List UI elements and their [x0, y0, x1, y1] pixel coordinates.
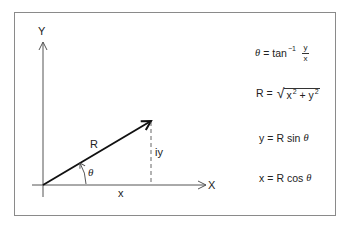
square-root: √ x2 + y2 [277, 86, 320, 100]
fraction-denominator: x [303, 55, 307, 63]
radical-sign-icon: √ [277, 86, 285, 100]
formula-theta-eq: = [263, 48, 269, 59]
angle-arc [80, 163, 86, 184]
fraction-numerator: y [303, 44, 307, 52]
horizontal-component-label: x [118, 188, 124, 199]
formula-y-r: R [276, 133, 284, 144]
formula-x-r: R [276, 173, 284, 184]
formula-y-func: sin [287, 133, 300, 144]
formula-y-lhs: y [259, 133, 264, 144]
radicand-x: x [286, 89, 291, 101]
formula-theta-sup: −1 [288, 45, 296, 52]
formula-x-lhs: x [259, 173, 264, 184]
vector-r-label: R [90, 139, 98, 150]
formula-radius-eq: = [267, 88, 273, 99]
formula-x-component: x = R cos θ [259, 173, 312, 184]
formula-y-component: y = R sin θ [259, 133, 309, 144]
formula-y-arg: θ [303, 133, 308, 144]
formula-x-eq: = [267, 173, 273, 184]
y-axis-label: Y [38, 26, 45, 37]
vector-r [43, 121, 151, 185]
formula-theta-fraction: y x [302, 44, 309, 63]
formula-y-eq: = [267, 133, 273, 144]
polar-coordinate-diagram [0, 0, 352, 225]
formula-radius-lhs: R [256, 88, 264, 99]
radicand-y: y [309, 89, 314, 101]
radicand-y-exponent: 2 [315, 88, 319, 95]
formula-theta-func: tan [272, 48, 287, 59]
formula-theta-lhs: θ [255, 48, 260, 59]
vertical-component-label: iy [155, 147, 163, 158]
formula-x-func: cos [287, 173, 303, 184]
formula-x-arg: θ [306, 173, 311, 184]
radicand: x2 + y2 [284, 88, 319, 101]
angle-theta-label: θ [88, 167, 93, 178]
formula-radius: R = √ x2 + y2 [256, 86, 320, 100]
formula-theta: θ = tan −1 y x [255, 44, 309, 63]
radicand-plus: + [300, 89, 306, 101]
radicand-x-exponent: 2 [293, 88, 297, 95]
x-axis-label: X [208, 180, 215, 191]
